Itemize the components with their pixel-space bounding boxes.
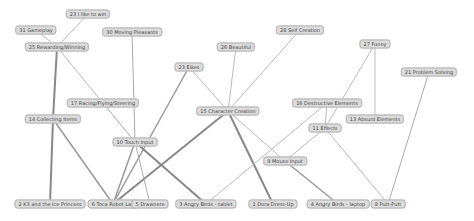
edge-n17-n10: [103, 103, 135, 142]
edge-n26-n15: [228, 47, 236, 111]
graph-node[interactable]: 13 Absurd Elements: [346, 115, 404, 124]
graph-node[interactable]: 28 Self Creation: [276, 26, 324, 35]
graph-node[interactable]: 9 Mouse Input: [263, 157, 307, 166]
edge-n21-n8: [388, 72, 429, 204]
graph-node[interactable]: 1 Dora Dress-Up: [248, 200, 297, 209]
edge-n14-n2: [50, 119, 53, 204]
graph-node[interactable]: 11 Effects: [309, 124, 342, 133]
edge-n30-n10: [132, 32, 135, 142]
graph-node[interactable]: 3 Angry Birds - tablet: [175, 200, 236, 209]
edge-n23b-n6: [113, 67, 189, 204]
graph-node[interactable]: 15 Character Creation: [196, 107, 259, 116]
graph-node[interactable]: 31 Gameplay: [15, 26, 56, 35]
graph-canvas[interactable]: 23 I like to win31 Gameplay30 Moving Ple…: [0, 0, 474, 221]
graph-node[interactable]: 17 Racing/Flying/Steering: [67, 99, 139, 108]
graph-node[interactable]: 26 Beautiful: [217, 43, 255, 52]
edge-n14-n6: [53, 119, 113, 204]
graph-node[interactable]: 14 Collecting Items: [25, 115, 81, 124]
graph-node[interactable]: 30 Moving Pleasants: [102, 28, 162, 37]
graph-node[interactable]: 23 I like to win: [66, 10, 110, 19]
graph-node[interactable]: 5 Drawnere: [131, 200, 168, 209]
graph-node[interactable]: 25 Rewarding/Winning: [25, 43, 89, 52]
edge-n15-n9: [228, 111, 285, 161]
edge-n23b-n15: [189, 67, 228, 111]
edge-n10-n3: [135, 142, 206, 204]
graph-node[interactable]: 21 Problem Solving: [401, 68, 457, 77]
graph-node[interactable]: 23 Eikes: [175, 63, 204, 72]
edge-n11-n8: [325, 128, 388, 204]
graph-node[interactable]: 8 Putt-Putt: [371, 200, 406, 209]
graph-node[interactable]: 2 K3 and the Ice Princess: [14, 200, 85, 209]
graph-node[interactable]: 16 Destructive Elements: [292, 99, 362, 108]
edge-n9-n4: [285, 161, 338, 204]
graph-node[interactable]: 27 Funny: [359, 40, 390, 49]
edge-n25-n14: [53, 47, 57, 119]
graph-node[interactable]: 4 Angry Birds - laptop: [307, 200, 370, 209]
graph-node[interactable]: 10 Touch Input: [113, 138, 158, 147]
